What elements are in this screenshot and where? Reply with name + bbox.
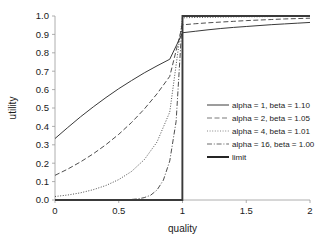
x-tick-label: 0.5: [112, 205, 125, 216]
legend-label: limit: [232, 153, 247, 162]
legend-label: alpha = 2, beta = 1.05: [232, 114, 310, 123]
y-tick-label: 0.1: [36, 176, 49, 187]
y-tick-label: 0.4: [36, 121, 49, 132]
legend-label: alpha = 1, beta = 1.10: [232, 101, 310, 110]
legend-label: alpha = 16, beta = 1.00: [232, 140, 315, 149]
y-tick-label: 0.9: [36, 29, 49, 40]
x-tick-label: 2: [307, 205, 312, 216]
chart-figure: 0.00.10.20.30.40.50.60.70.80.91.000.511.…: [0, 0, 330, 246]
y-tick-label: 0.0: [36, 194, 49, 205]
utility-vs-quality-chart: 0.00.10.20.30.40.50.60.70.80.91.000.511.…: [0, 0, 330, 246]
y-tick-label: 0.8: [36, 47, 49, 58]
y-tick-label: 0.6: [36, 84, 49, 95]
y-tick-label: 0.7: [36, 66, 49, 77]
y-tick-label: 0.3: [36, 139, 49, 150]
x-tick-label: 1: [180, 205, 185, 216]
x-tick-label: 1.5: [240, 205, 253, 216]
y-axis-title: utility: [7, 97, 18, 120]
legend-label: alpha = 4, beta = 1.01: [232, 127, 310, 136]
x-axis-title: quality: [168, 223, 197, 234]
x-tick-label: 0: [52, 205, 57, 216]
y-tick-label: 0.5: [36, 102, 49, 113]
y-tick-label: 0.2: [36, 158, 49, 169]
y-tick-label: 1.0: [36, 10, 49, 21]
